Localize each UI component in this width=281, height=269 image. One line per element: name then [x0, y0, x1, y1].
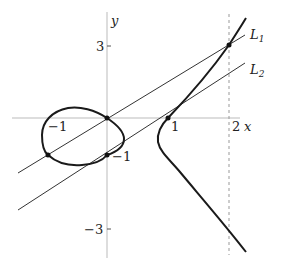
- y-tick-label-3: 3: [96, 40, 104, 53]
- point-2-3: [227, 43, 232, 48]
- point-neg1-neg1: [46, 153, 51, 158]
- x-tick-label-neg1: −1: [48, 120, 67, 133]
- line-l2-label: L2: [250, 63, 264, 79]
- elliptic-curve-diagram: y x 3 −1 −1 1 2 −3 L1 L2: [0, 0, 281, 269]
- x-tick-label-2: 2: [232, 120, 240, 133]
- y-tick-label-neg3: −3: [84, 223, 103, 236]
- x-tick-label-1: 1: [171, 120, 179, 133]
- y-tick-label-neg1: −1: [112, 150, 131, 163]
- point-0-neg1: [105, 153, 110, 158]
- curve-branch: [158, 18, 246, 252]
- y-axis-label: y: [111, 14, 118, 27]
- x-axis-label: x: [244, 120, 251, 133]
- line-l1-label: L1: [250, 28, 264, 44]
- plot-canvas: [0, 0, 281, 269]
- point-1-0: [166, 116, 171, 121]
- point-origin: [105, 116, 110, 121]
- line-l1: [18, 35, 245, 173]
- line-l2: [18, 63, 245, 210]
